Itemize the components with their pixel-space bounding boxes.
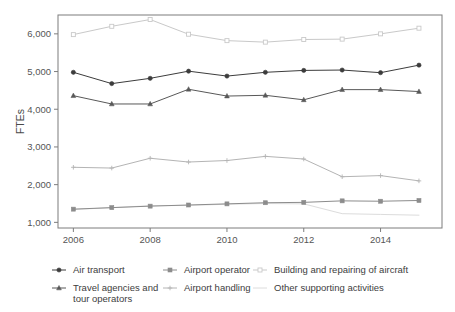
legend-marker-square-open-icon [258,268,262,272]
y-tick-label: 2,000 [27,179,51,190]
y-tick-label: 4,000 [27,104,51,115]
legend-item-air-transport[interactable]: Air transport [52,264,125,275]
series-lines [71,18,421,216]
x-axis-ticks: 20062008201020122014 [63,228,391,245]
legend-item-travel-agencies-and-tour-operators[interactable]: Travel agencies andtour operators [52,282,158,304]
legend-label: Airport handling [184,282,251,293]
legend-marker-plus-icon [168,286,173,291]
chart-container: 1,0002,0003,0004,0005,0006,000 200620082… [0,0,455,312]
legend-item-airport-handling[interactable]: Airport handling [163,282,251,293]
chart-legend: Air transportAirport operatorBuilding an… [52,264,408,304]
legend-item-other-supporting-activities[interactable]: Other supporting activities [253,282,384,293]
y-axis-title-text: FTEs [14,109,26,134]
x-tick-label: 2014 [370,234,391,245]
x-tick-label: 2010 [216,234,237,245]
y-axis-ticks: 1,0002,0003,0004,0005,0006,000 [27,28,58,227]
y-tick-label: 5,000 [27,66,51,77]
x-tick-label: 2008 [140,234,161,245]
y-axis-title: FTEs [14,109,26,134]
legend-marker-square-icon [168,268,172,272]
legend-label: Other supporting activities [274,282,384,293]
legend-marker-circle-icon [57,268,61,272]
legend-label: Travel agencies andtour operators [73,282,158,304]
x-tick-label: 2006 [63,234,84,245]
y-tick-label: 3,000 [27,141,51,152]
legend-label: Building and repairing of aircraft [274,264,408,275]
plot-frame [58,15,442,228]
y-tick-label: 1,000 [27,217,51,228]
series-building-and-repairing-of-aircraft [71,18,421,45]
legend-item-airport-operator[interactable]: Airport operator [163,264,250,275]
y-tick-label: 6,000 [27,28,51,39]
series-airport-handling [71,154,421,183]
series-air-transport [71,63,421,86]
series-travel-agencies-and-tour-operators [71,87,421,106]
legend-label: Airport operator [184,264,250,275]
series-other-supporting-activities [73,204,419,216]
series-airport-operator [71,198,421,211]
legend-item-building-and-repairing-of-aircraft[interactable]: Building and repairing of aircraft [253,264,408,275]
ftes-line-chart: 1,0002,0003,0004,0005,0006,000 200620082… [0,0,455,312]
x-tick-label: 2012 [293,234,314,245]
legend-label: Air transport [73,264,125,275]
